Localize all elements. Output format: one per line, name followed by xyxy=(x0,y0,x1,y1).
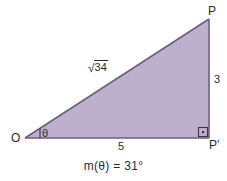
side-length-vertical: 3 xyxy=(214,74,220,85)
side-length-horizontal: 5 xyxy=(118,141,124,152)
triangle-svg xyxy=(0,0,227,181)
vertex-label-p-prime: P' xyxy=(209,139,219,151)
angle-measure-caption: m(θ) = 31° xyxy=(0,160,227,172)
right-angle-marker-dot-icon xyxy=(202,131,204,133)
vertex-label-p: P xyxy=(208,5,216,17)
angle-label-theta: θ xyxy=(42,128,48,139)
radicand-value: 34 xyxy=(94,60,108,73)
geometry-figure: P P' O 3 5 √34 θ m(θ) = 31° xyxy=(0,0,227,181)
vertex-label-o: O xyxy=(11,132,20,144)
side-length-hypotenuse: √34 xyxy=(88,62,108,74)
